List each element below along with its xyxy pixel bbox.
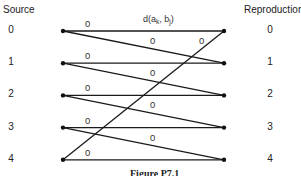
reproduction-node-4 bbox=[222, 158, 226, 162]
edge-label-0-to-1: 0 bbox=[150, 35, 155, 46]
reproduction-node-2 bbox=[222, 93, 226, 97]
source-node-4 bbox=[61, 158, 65, 162]
edge-label-4-to-0: 0 bbox=[199, 35, 204, 46]
source-node-2 bbox=[61, 93, 65, 97]
reproduction-node-0 bbox=[222, 29, 226, 33]
edge-label-2-to-3: 0 bbox=[150, 99, 155, 110]
edge-label-2-to-2: 0 bbox=[85, 82, 90, 93]
edge-label-1-to-1: 0 bbox=[85, 50, 90, 61]
edge-label-0-to-0: 0 bbox=[85, 18, 90, 29]
reproduction-node-1 bbox=[222, 61, 226, 65]
edge-label-1-to-2: 0 bbox=[150, 67, 155, 78]
source-node-3 bbox=[61, 125, 65, 129]
distortion-label: d(ak, bj) bbox=[143, 14, 174, 26]
source-node-0 bbox=[61, 29, 65, 33]
reproduction-node-3 bbox=[222, 125, 226, 129]
channel-diagram: 0000000000 d(ak, bj) bbox=[0, 0, 301, 176]
edge-label-4-to-4: 0 bbox=[85, 147, 90, 158]
source-node-1 bbox=[61, 61, 65, 65]
figure-caption: Figure P7.1 bbox=[130, 168, 179, 176]
edge-label-3-to-3: 0 bbox=[85, 115, 90, 126]
edge-label-3-to-4: 0 bbox=[150, 132, 155, 143]
